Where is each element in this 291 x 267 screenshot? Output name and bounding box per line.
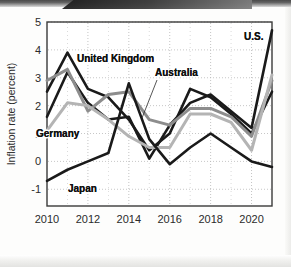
x-tick-label: 2016 [157, 213, 181, 225]
inflation-line-chart: 543210-1 201020122014201620182020 Inflat… [0, 0, 291, 267]
series-annotation-japan: Japan [68, 183, 97, 194]
y-axis-tick-labels: 543210-1 [31, 16, 41, 195]
series-annotation-germany: Germany [36, 128, 80, 139]
y-tick-label: 2 [35, 100, 41, 112]
scan-artifact-bottom-band [0, 255, 291, 267]
y-tick-label: 3 [35, 72, 41, 84]
x-tick-label: 2010 [35, 213, 59, 225]
x-axis-tick-labels: 201020122014201620182020 [35, 213, 264, 225]
series-annotation-australia: Australia [155, 67, 198, 78]
x-tick-label: 2020 [239, 213, 263, 225]
chart-page: 543210-1 201020122014201620182020 Inflat… [0, 0, 291, 267]
series-annotation-united-kingdom: United Kingdom [77, 53, 154, 64]
y-tick-label: 0 [35, 155, 41, 167]
series-annotation-u-s: U.S. [244, 31, 264, 42]
y-tick-label: 5 [35, 16, 41, 28]
y-axis-title: Inflation rate (percent) [5, 63, 17, 166]
x-tick-label: 2014 [117, 213, 141, 225]
scan-artifact-right-band [285, 7, 291, 255]
y-tick-label: -1 [31, 183, 41, 195]
y-tick-label: 4 [35, 44, 41, 56]
x-tick-label: 2018 [198, 213, 222, 225]
x-tick-label: 2012 [76, 213, 100, 225]
